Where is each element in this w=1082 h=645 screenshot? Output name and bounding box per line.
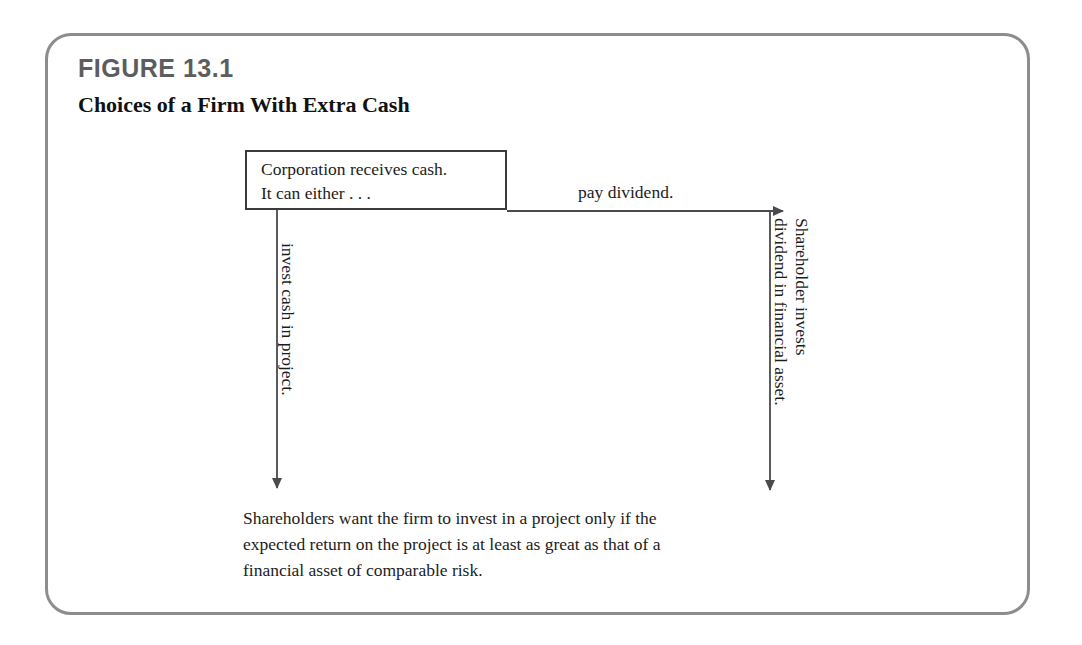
source-box: Corporation receives cash. It can either… — [245, 150, 507, 210]
figure-title: Choices of a Firm With Extra Cash — [78, 92, 410, 118]
edge-label-invest-cash: invest cash in project. — [278, 243, 298, 396]
figure-page: FIGURE 13.1 Choices of a Firm With Extra… — [0, 0, 1082, 645]
edge-label-pay-dividend: pay dividend. — [578, 182, 673, 203]
edge-label-shareholder-invests: Shareholder invests dividend in financia… — [770, 218, 812, 406]
source-box-text: Corporation receives cash. It can either… — [261, 157, 447, 205]
figure-number-label: FIGURE 13.1 — [78, 54, 234, 83]
diagram-caption: Shareholders want the firm to invest in … — [243, 505, 743, 583]
